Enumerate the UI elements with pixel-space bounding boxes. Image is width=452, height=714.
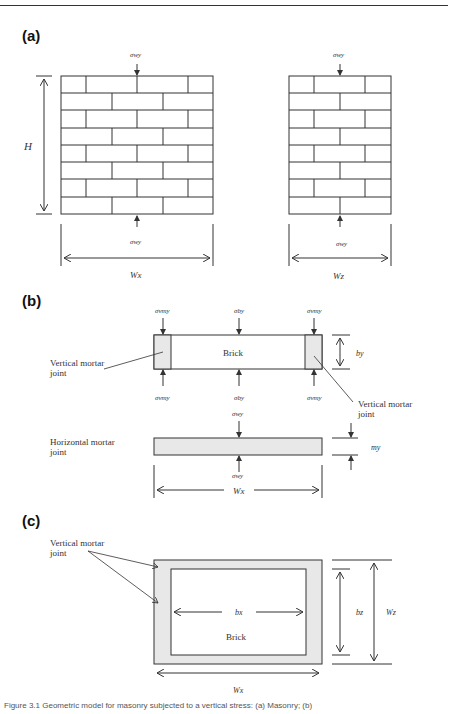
masonry-diagram: H σwy σwy Wx σwy σwy xyxy=(0,0,452,714)
wall-left-bottom-stress: σwy xyxy=(130,238,142,246)
wall-left-width-label: Wx xyxy=(130,270,142,280)
inner-width-label: bx xyxy=(235,608,243,617)
outer-depth-label: Wz xyxy=(386,608,397,617)
left-joint-callout-line2: joint xyxy=(49,368,67,378)
right-joint-callout-line1: Vertical mortar xyxy=(358,399,412,409)
brick-bottom-stress-center: σby xyxy=(234,394,245,402)
plan-callout-line2: joint xyxy=(49,548,67,558)
wall-left xyxy=(61,76,213,214)
height-label: H xyxy=(23,140,33,152)
outer-width-label: Wx xyxy=(233,686,244,695)
joint-height-label: my xyxy=(371,443,381,452)
left-joint-callout-line1: Vertical mortar xyxy=(50,358,104,368)
joint-top-stress: σwy xyxy=(232,410,244,418)
brick-height-label: by xyxy=(356,349,364,358)
brick-label-c: Brick xyxy=(226,632,246,642)
wall-right-top-stress: σwy xyxy=(333,51,345,59)
horizontal-joint-callout-line2: joint xyxy=(49,447,67,457)
brick-top-stress-right: σvmy xyxy=(307,307,323,315)
inner-depth-label: bz xyxy=(356,608,364,617)
wall-right xyxy=(289,76,391,214)
horizontal-joint-callout-line1: Horizontal mortar xyxy=(50,437,115,447)
wall-left-top-stress: σwy xyxy=(130,51,142,59)
joint-width-label: Wx xyxy=(233,486,245,496)
right-joint-callout-line2: joint xyxy=(357,409,375,419)
joint-bottom-stress: σwy xyxy=(232,472,244,480)
plan-callout-line1: Vertical mortar xyxy=(50,538,104,548)
brick-bottom-stress-right: σvmy xyxy=(307,394,323,402)
height-dimension xyxy=(36,76,52,214)
brick-top-stress-left: σvmy xyxy=(155,307,171,315)
figure-caption: Figure 3.1 Geometric model for masonry s… xyxy=(4,701,312,710)
brick-bottom-stress-left: σvmy xyxy=(155,394,171,402)
wall-right-bottom-stress: σwy xyxy=(336,240,348,248)
brick-label-b: Brick xyxy=(223,348,243,358)
brick-top-stress-center: σby xyxy=(234,307,245,315)
wall-right-width-label: Wz xyxy=(333,271,344,281)
horizontal-mortar-joint xyxy=(154,438,322,455)
